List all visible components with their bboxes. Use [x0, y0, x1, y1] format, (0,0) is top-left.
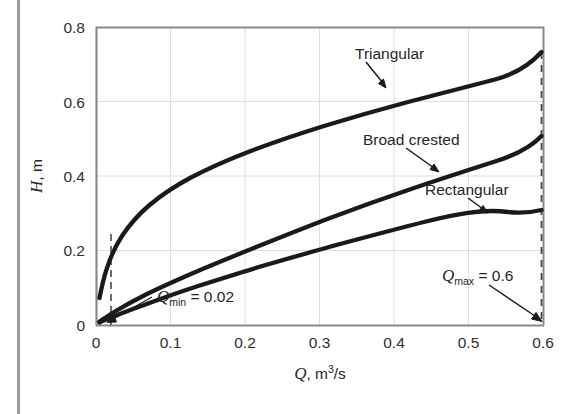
annotation-q-min-var: Q [157, 287, 169, 306]
x-tick-label-6: 0.6 [532, 334, 554, 351]
x-tick-label-5: 0.5 [458, 334, 480, 351]
x-tick-label-0: 0 [92, 334, 101, 351]
annotation-q-max: Qmax = 0.6 [442, 266, 513, 287]
y-axis-tick-labels: 0 0.2 0.4 0.6 0.8 [63, 19, 85, 334]
x-axis-title-unit: , m [306, 365, 328, 382]
annotation-q-max-sub: max [454, 275, 475, 287]
annotation-q-min-value: = 0.02 [186, 288, 234, 305]
x-tick-label-2: 0.2 [234, 334, 256, 351]
annotation-q-max-var: Q [442, 266, 454, 285]
curve-triangular [100, 52, 542, 298]
x-tick-label-3: 0.3 [309, 334, 331, 351]
arrow-line-rectangular [468, 198, 483, 209]
weir-rating-curve-figure: 0 0.1 0.2 0.3 0.4 0.5 0.6 0 0.2 0.4 0.6 … [0, 0, 580, 414]
x-axis-title-unit-tail: /s [334, 365, 346, 382]
x-axis-title: Q, m3/s [294, 363, 346, 383]
arrow-head-q-max [532, 313, 543, 322]
annotation-q-min-sub: min [169, 296, 186, 308]
y-tick-label-1: 0.2 [63, 242, 85, 259]
y-axis-title: H, m [27, 159, 46, 194]
y-tick-label-3: 0.6 [63, 94, 85, 111]
x-axis-title-var: Q [294, 364, 306, 383]
curve-label-broad-crested: Broad crested [363, 131, 460, 148]
x-axis-tick-labels: 0 0.1 0.2 0.3 0.4 0.5 0.6 [92, 334, 554, 351]
y-tick-label-4: 0.8 [63, 19, 85, 36]
x-tick-label-1: 0.1 [160, 334, 182, 351]
arrow-line-broad-crested [406, 148, 434, 168]
arrow-head-triangular [379, 79, 387, 88]
y-tick-label-0: 0 [76, 317, 85, 334]
arrow-line-q-max [489, 285, 535, 316]
annotation-q-max-value: = 0.6 [474, 267, 513, 284]
y-axis-title-unit: , m [28, 159, 45, 181]
y-tick-label-2: 0.4 [63, 168, 85, 185]
chart-canvas: 0 0.1 0.2 0.3 0.4 0.5 0.6 0 0.2 0.4 0.6 … [0, 0, 580, 414]
annotation-q-min: Qmin = 0.02 [157, 287, 234, 308]
curve-label-rectangular: Rectangular [425, 181, 509, 198]
arrow-line-triangular [366, 62, 383, 83]
x-tick-label-4: 0.4 [383, 334, 405, 351]
curve-label-triangular: Triangular [355, 45, 424, 62]
